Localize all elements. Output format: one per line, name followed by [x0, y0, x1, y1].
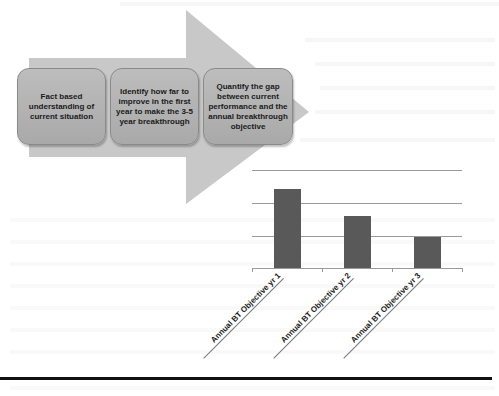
x-label-yr-3: Annual BT Objective yr 3: [337, 271, 424, 358]
bar-chart: Annual BT Objective yr 1 Annual BT Objec…: [0, 0, 499, 396]
x-tick: [392, 268, 393, 272]
bar-yr-3: [414, 237, 441, 268]
gridline: [252, 170, 462, 171]
bar-yr-2: [344, 216, 371, 268]
x-tick: [322, 268, 323, 272]
bottom-rule: [0, 377, 492, 380]
x-tick: [462, 268, 463, 272]
bar-yr-1: [274, 189, 301, 268]
x-tick: [252, 268, 253, 272]
x-axis: [252, 268, 462, 269]
